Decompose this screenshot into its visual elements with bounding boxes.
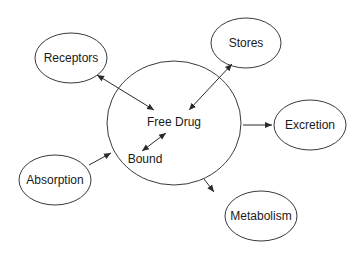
edge-absorption-freedrug-arrow xyxy=(89,153,111,165)
node-absorption: Absorption xyxy=(19,155,91,205)
excretion-label: Excretion xyxy=(285,118,335,132)
absorption-label: Absorption xyxy=(26,173,83,187)
node-metabolism: Metabolism xyxy=(225,191,297,241)
stores-label: Stores xyxy=(229,36,264,50)
node-receptors: Receptors xyxy=(35,33,107,83)
central-node-free-drug: Free Drug Bound xyxy=(107,61,241,185)
node-excretion: Excretion xyxy=(274,100,346,150)
bound-label: Bound xyxy=(128,152,163,166)
metabolism-label: Metabolism xyxy=(230,209,291,223)
drug-distribution-diagram: Free Drug Bound Receptors Stores Excreti… xyxy=(0,0,362,256)
node-stores: Stores xyxy=(211,18,281,68)
free-drug-label: Free Drug xyxy=(147,115,201,129)
receptors-label: Receptors xyxy=(44,51,99,65)
edge-freedrug-metabolism-arrow xyxy=(204,179,214,192)
